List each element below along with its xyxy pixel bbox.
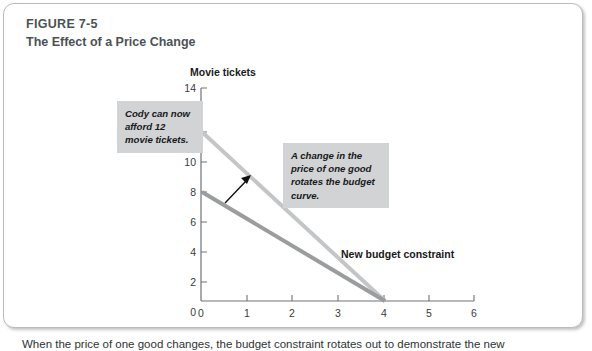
annotation-cody-affords: Cody can now afford 12 movie tickets. [117,101,203,153]
x-tick-label-5: 5 [422,307,436,319]
x-axis-ticks [247,295,474,301]
figure-caption: When the price of one good changes, the … [22,337,567,351]
x-tick-label-6: 6 [467,307,481,319]
chart-plot-area: Movie tickets Concert tickets 14 12 10 8… [4,4,583,328]
label-new-budget-constraint: New budget constraint [341,248,454,260]
original-budget-constraint-line [202,192,385,301]
y-tick-label-2: 2 [178,276,196,288]
y-tick-label-8: 8 [178,186,196,198]
x-tick-label-3: 3 [331,307,345,319]
x-tick-label-4: 4 [377,307,391,319]
figure-card: FIGURE 7-5 The Effect of a Price Change [3,3,583,328]
x-tick-label-2: 2 [285,307,299,319]
y-tick-label-4: 4 [178,246,196,258]
x-tick-label-0: 0 [194,307,208,319]
y-tick-label-10: 10 [178,156,196,168]
y-tick-label-6: 6 [178,216,196,228]
annotation-price-change-rotates: A change in the price of one good rotate… [283,143,389,208]
x-tick-label-1: 1 [240,307,254,319]
y-axis-title: Movie tickets [190,66,256,78]
rotation-arrow-icon [225,175,251,203]
y-tick-label-14: 14 [178,82,196,94]
